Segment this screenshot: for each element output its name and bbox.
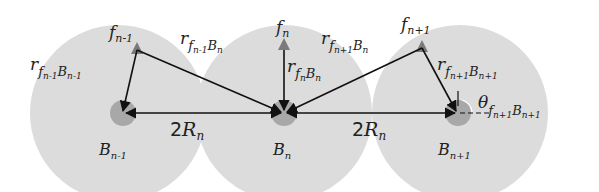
femtocell-interference-diagram: fn-1 fn fn+1 rfn-1Bn-1 rfn-1Bn rfnBn rfn… — [0, 0, 599, 192]
label-f-n: fn — [274, 17, 289, 40]
label-r-fn-1-bn: rfn-1Bn — [180, 28, 223, 55]
label-f-n-plus-1: fn+1 — [399, 14, 431, 37]
